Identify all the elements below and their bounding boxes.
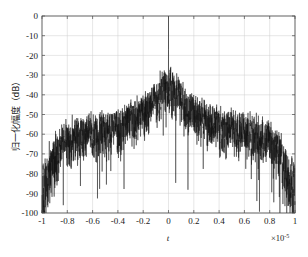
y-tick-label: -100	[22, 208, 39, 218]
x-axis-title: t	[167, 233, 170, 243]
x-tick-label: 0.8	[264, 216, 276, 226]
y-tick-label: -60	[26, 129, 38, 139]
x-tick-label: 0	[166, 216, 171, 226]
y-tick-label: -50	[26, 110, 38, 120]
x-tick-label: -0.2	[136, 216, 150, 226]
svg-text:×10-5: ×10-5	[271, 233, 289, 244]
y-axis-title: 归一化幅度（dB）	[10, 77, 21, 152]
y-tick-label: -10	[26, 31, 38, 41]
y-tick-label: -90	[26, 189, 38, 199]
x-tick-label: 0.4	[213, 216, 225, 226]
y-tick-label: -40	[26, 90, 38, 100]
figure-container: -1-0.8-0.6-0.4-0.200.20.40.60.81 0-10-20…	[0, 0, 308, 257]
y-axis-tick-labels: 0-10-20-30-40-50-60-70-80-90-100	[22, 11, 39, 218]
x-axis-tick-labels: -1-0.8-0.6-0.4-0.200.20.40.60.81	[38, 216, 297, 226]
x-axis-exponent: ×10-5	[271, 233, 289, 244]
svg-text:归一化幅度（dB）: 归一化幅度（dB）	[10, 77, 21, 152]
y-tick-label: -70	[26, 149, 38, 159]
x-tick-label: 0.6	[239, 216, 251, 226]
y-tick-label: -20	[26, 51, 38, 61]
x-tick-label: -1	[38, 216, 46, 226]
x-tick-label: -0.4	[111, 216, 126, 226]
x-tick-label: 1	[293, 216, 298, 226]
y-tick-label: 0	[34, 11, 39, 21]
spectrum-chart: -1-0.8-0.6-0.4-0.200.20.40.60.81 0-10-20…	[0, 0, 308, 257]
y-tick-label: -80	[26, 169, 38, 179]
x-tick-label: 0.2	[188, 216, 199, 226]
x-tick-label: -0.6	[85, 216, 100, 226]
y-tick-label: -30	[26, 70, 38, 80]
x-tick-label: -0.8	[60, 216, 75, 226]
